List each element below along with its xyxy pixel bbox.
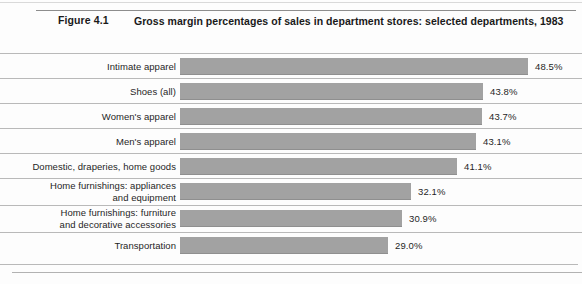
bar [180, 83, 483, 100]
bar-value-label: 30.9% [409, 206, 436, 231]
category-label-line: Home furnishings: appliances [50, 180, 176, 192]
category-label-line: Intimate apparel [107, 61, 176, 73]
category-label: Home furnishings: appliancesand equipmen… [8, 179, 176, 204]
category-label-line: Women's apparel [102, 111, 176, 123]
category-label-line: Shoes (all) [130, 86, 176, 98]
category-label-line: and equipment [112, 192, 176, 204]
bar-value-label: 32.1% [418, 179, 445, 204]
bar-track: 43.7% [180, 104, 580, 129]
category-label-line: and decorative accessories [60, 219, 176, 231]
category-label-line: Home furnishings: furniture [61, 207, 176, 219]
chart-bottom-rule [0, 264, 578, 265]
bar-track: 43.1% [180, 129, 580, 154]
bar [180, 183, 411, 200]
category-label: Transportation [8, 233, 176, 258]
category-label: Domestic, draperies, home goods [8, 154, 176, 179]
category-label: Home furnishings: furnitureand decorativ… [8, 206, 176, 231]
bar-value-label: 48.5% [535, 54, 562, 79]
bar [180, 58, 528, 75]
bar-value-label: 29.0% [395, 233, 422, 258]
category-label: Men's apparel [8, 129, 176, 154]
bar-track: 30.9% [180, 206, 580, 231]
bar-track: 48.5% [180, 54, 580, 79]
table-row: Home furnishings: appliancesand equipmen… [0, 178, 582, 204]
table-row: Men's apparel43.1% [0, 128, 582, 154]
bar [180, 108, 482, 125]
bar-track: 43.8% [180, 79, 580, 104]
table-row: Transportation29.0% [0, 232, 582, 258]
bar-track: 32.1% [180, 179, 580, 204]
category-label-line: Domestic, draperies, home goods [32, 161, 176, 173]
bar [180, 210, 402, 227]
figure-number: Figure 4.1 [58, 14, 109, 26]
bar-track: 29.0% [180, 233, 580, 258]
page-title: Gross margin percentages of sales in dep… [134, 14, 582, 28]
category-label-line: Men's apparel [116, 136, 176, 148]
bar-value-label: 41.1% [464, 154, 491, 179]
figure-container: Figure 4.1 Gross margin percentages of s… [0, 0, 582, 284]
bar-value-label: 43.7% [489, 104, 516, 129]
category-label-line: Transportation [114, 240, 176, 252]
category-label: Shoes (all) [8, 79, 176, 104]
bar-value-label: 43.8% [490, 79, 517, 104]
bar [180, 133, 476, 150]
category-label: Intimate apparel [8, 54, 176, 79]
page-bottom-rule [12, 272, 582, 273]
bar [180, 237, 388, 254]
bar [180, 158, 457, 175]
bar-value-label: 43.1% [483, 129, 510, 154]
bar-track: 41.1% [180, 154, 580, 179]
page-top-hairline [0, 2, 582, 3]
bar-chart: Intimate apparel48.5%Shoes (all)43.8%Wom… [0, 53, 582, 263]
table-row: Intimate apparel48.5% [0, 53, 582, 79]
table-row: Home furnishings: furnitureand decorativ… [0, 205, 582, 231]
title-top-rule [36, 10, 576, 11]
category-label: Women's apparel [8, 104, 176, 129]
table-row: Women's apparel43.7% [0, 103, 582, 129]
table-row: Shoes (all)43.8% [0, 78, 582, 104]
table-row: Domestic, draperies, home goods41.1% [0, 153, 582, 179]
